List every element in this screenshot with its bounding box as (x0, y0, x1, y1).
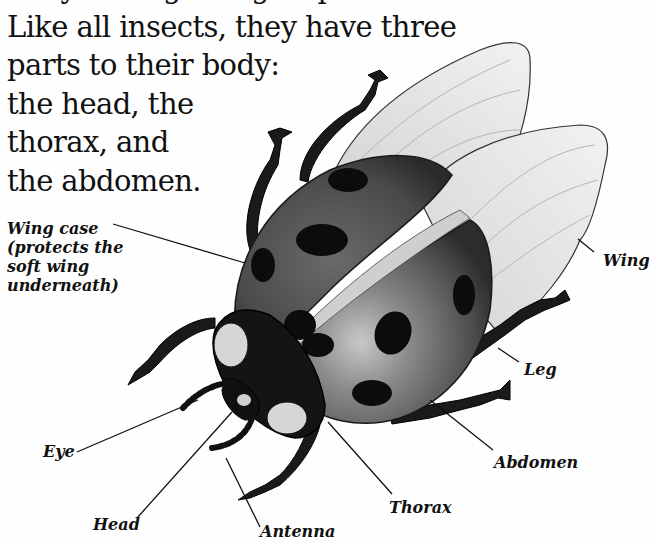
label-wing: Wing (603, 251, 650, 270)
thorax-patch-left (214, 323, 248, 367)
leader-leg (498, 348, 519, 362)
label-thorax: Thorax (389, 498, 452, 517)
label-abdomen: Abdomen (494, 453, 578, 472)
leader-eye (77, 400, 198, 452)
label-head: Head (93, 515, 140, 534)
leader-wing-case (113, 224, 245, 263)
label-eye: Eye (43, 442, 75, 461)
label-wing-case: Wing case (protects the soft wing undern… (7, 219, 123, 295)
leader-head (137, 412, 232, 518)
eye (237, 394, 251, 406)
label-leg: Leg (524, 360, 557, 379)
thorax-patch-right (267, 402, 307, 434)
label-antenna: Antenna (260, 522, 335, 541)
leader-wing (578, 239, 594, 252)
textbook-page: They belong to a group... Like all insec… (0, 0, 652, 543)
leg-front-left (128, 318, 215, 385)
leader-thorax (328, 422, 392, 494)
